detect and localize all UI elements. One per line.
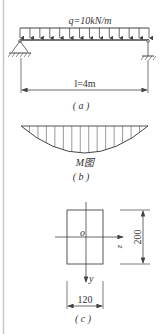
roller-support-icon [141,40,156,60]
moment-curve [21,126,148,153]
caption-b: ( b ) [73,171,90,183]
load-arrows [20,28,149,38]
height-dimension-label: 200 [132,230,143,245]
load-label: q=10kN/m [69,15,112,26]
span-label: l=4m [74,78,95,89]
origin-label: o [80,227,85,238]
moment-diagram-label: M图 [75,157,96,168]
caption-a: ( a ) [73,100,90,112]
cross-section: o z y 200 120 ( c ) [55,202,150,325]
moment-diagram: M图 ( b ) [21,126,148,183]
moment-hatch [29,126,139,153]
structural-figure: q=10kN/m l=4m ( a ) M图 [0,0,162,334]
z-axis-label: z [116,244,126,249]
beam-diagram: q=10kN/m l=4m ( a ) [8,15,156,112]
caption-c: ( c ) [75,313,92,325]
pin-support-icon [8,40,31,57]
y-axis-label: y [88,273,94,284]
width-dimension-label: 120 [78,294,93,305]
